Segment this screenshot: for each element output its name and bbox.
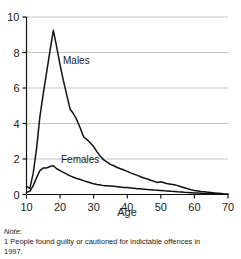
svg-text:70: 70 [222,201,234,213]
svg-text:8: 8 [13,47,19,59]
svg-text:60: 60 [188,201,200,213]
figure-container: 0246810 10203040506070 Age Males Females… [0,0,241,259]
svg-text:2: 2 [13,153,19,165]
svg-text:0: 0 [13,189,19,201]
note-heading: Note: [4,227,239,237]
age-offending-rate-line-chart: 0246810 10203040506070 Age Males Females [0,0,241,226]
svg-text:50: 50 [155,201,167,213]
svg-text:6: 6 [13,82,19,94]
svg-text:10: 10 [7,11,19,23]
svg-text:20: 20 [54,201,66,213]
note-body: 1 People found guilty or cautioned for i… [4,237,204,256]
series-label-females: Females [61,154,99,165]
note-block: Note: 1 People found guilty or cautioned… [4,227,239,256]
svg-text:30: 30 [88,201,100,213]
svg-text:4: 4 [13,118,19,130]
series-label-males: Males [63,55,90,66]
svg-text:10: 10 [20,201,32,213]
x-axis-title: Age [117,206,137,218]
